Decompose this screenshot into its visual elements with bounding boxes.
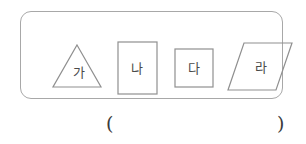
answer-paren-close: ) <box>277 110 284 136</box>
answer-row: ( ) <box>0 110 306 138</box>
shape-parallelogram[interactable]: 라 <box>227 42 293 91</box>
shape-panel: 가 나 다 라 <box>20 11 283 99</box>
shape-triangle[interactable]: 가 <box>51 43 103 89</box>
shape-label-rectangle: 나 <box>131 62 143 75</box>
shape-square[interactable]: 다 <box>174 48 214 88</box>
shape-label-square: 다 <box>188 62 200 75</box>
shape-label-triangle: 가 <box>73 66 85 79</box>
worksheet: 가 나 다 라 ( ) <box>0 0 306 144</box>
shape-label-parallelogram: 라 <box>255 61 267 74</box>
shape-rectangle[interactable]: 나 <box>117 41 158 95</box>
answer-paren-open: ( <box>106 110 113 136</box>
answer-blank[interactable] <box>118 112 274 136</box>
